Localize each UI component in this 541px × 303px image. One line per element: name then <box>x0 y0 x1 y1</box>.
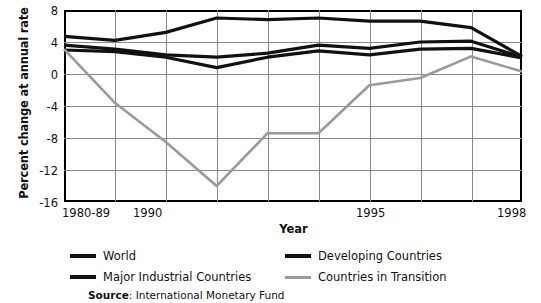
y-tick-label: -8 <box>18 132 58 146</box>
x-tick-label: 1998 <box>497 206 526 220</box>
x-axis-title: Year <box>0 222 541 236</box>
legend-item-countries-in-transition[interactable]: Countries in Transition <box>285 270 447 284</box>
y-tick-label: 0 <box>18 68 58 82</box>
source-note: Source: International Monetary Fund <box>88 289 284 301</box>
x-axis-title-text: Year <box>279 222 308 236</box>
y-tick-label: 8 <box>18 4 58 18</box>
x-tick-label: 1995 <box>356 206 385 220</box>
source-prefix: Source <box>88 289 129 301</box>
legend-label: Developing Countries <box>318 249 442 263</box>
legend-item-world[interactable]: World <box>70 249 136 263</box>
plot-area <box>64 10 522 202</box>
legend-swatch-icon <box>70 275 96 279</box>
legend-label: World <box>103 249 136 263</box>
series-lines <box>64 10 522 202</box>
series-line <box>64 49 522 186</box>
legend-swatch-icon <box>285 276 311 279</box>
legend-item-major-industrial-countries[interactable]: Major Industrial Countries <box>70 270 251 284</box>
legend-swatch-icon <box>70 254 96 258</box>
source-separator: : <box>129 289 136 301</box>
legend-label: Major Industrial Countries <box>103 270 251 284</box>
y-tick-label: -12 <box>18 164 58 178</box>
legend: World Major Industrial Countries Develop… <box>70 249 530 289</box>
y-tick-label: 4 <box>18 36 58 50</box>
legend-label: Countries in Transition <box>318 270 447 284</box>
x-tick-label: 1980-89 <box>62 206 110 220</box>
legend-item-developing-countries[interactable]: Developing Countries <box>285 249 442 263</box>
y-tick-label: -16 <box>18 196 58 210</box>
legend-swatch-icon <box>285 254 311 258</box>
source-text: International Monetary Fund <box>136 289 285 301</box>
y-tick-label: -4 <box>18 100 58 114</box>
chart-figure: Percent change at annual rate 8 4 0 -4 -… <box>0 0 541 303</box>
x-tick-label: 1990 <box>133 206 162 220</box>
